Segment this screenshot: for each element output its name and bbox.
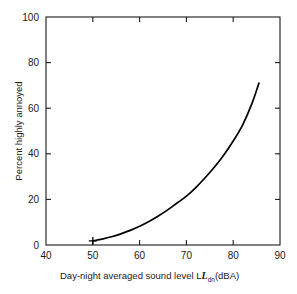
y-tick-label-0: 0: [33, 240, 39, 251]
x-tick-label-70: 70: [181, 250, 193, 261]
x-axis-title-main: Day-night averaged sound level L: [60, 270, 202, 281]
x-tick-label-60: 60: [134, 250, 146, 261]
x-tick-label-50: 50: [87, 250, 99, 261]
x-tick-label-40: 40: [40, 250, 52, 261]
x-tick-label-90: 90: [274, 250, 286, 261]
x-tick-label-80: 80: [228, 250, 240, 261]
x-axis-title-units: (dBA): [215, 270, 239, 281]
y-axis-title: Percent highly annoyed: [13, 81, 24, 180]
y-tick-label-20: 20: [28, 194, 40, 205]
x-axis-title-symbol: L: [201, 270, 208, 281]
annoyance-curve-chart: 405060708090 020406080100 Percent highly…: [0, 0, 297, 294]
y-tick-label-40: 40: [28, 148, 40, 159]
chart-figure: 405060708090 020406080100 Percent highly…: [0, 0, 297, 294]
y-tick-label-60: 60: [28, 103, 40, 114]
y-tick-label-100: 100: [22, 12, 39, 23]
y-tick-label-80: 80: [28, 57, 40, 68]
